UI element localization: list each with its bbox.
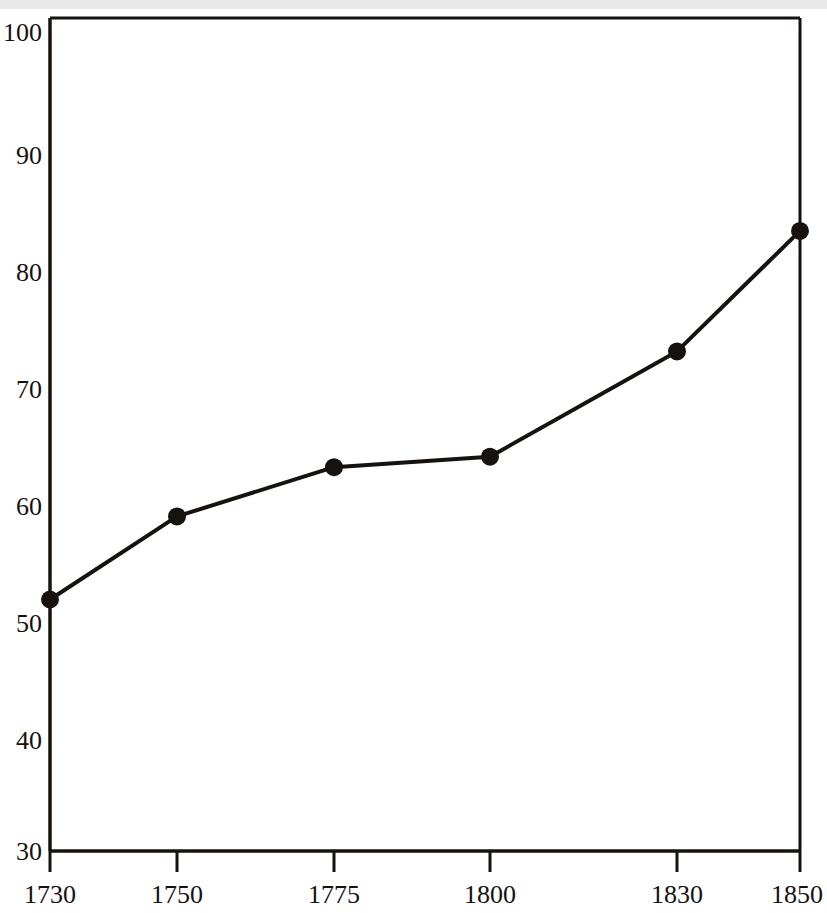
- y-tick-label-30: 30: [16, 837, 42, 866]
- y-tick-label-70: 70: [16, 375, 42, 404]
- data-point-1730: [41, 591, 59, 609]
- y-tick-label-80: 80: [16, 258, 42, 287]
- data-line: [50, 231, 800, 600]
- data-point-1775: [325, 458, 343, 476]
- line-chart: 100 90 80 70 60 50 40 30 1730 1750 1775 …: [0, 0, 827, 913]
- y-tick-label-50: 50: [16, 609, 42, 638]
- y-tick-label-100: 100: [3, 18, 42, 47]
- x-tick-label-1750: 1750: [151, 880, 203, 909]
- data-point-1850: [791, 222, 809, 240]
- x-tick-label-1775: 1775: [308, 880, 360, 909]
- y-tick-label-90: 90: [16, 141, 42, 170]
- x-tick-label-1800: 1800: [464, 880, 516, 909]
- y-tick-labels: 100 90 80 70 60 50 40 30: [3, 18, 42, 866]
- data-point-1830: [668, 342, 686, 360]
- x-tick-labels: 1730 1750 1775 1800 1830 1850: [24, 880, 823, 909]
- y-tick-label-40: 40: [16, 726, 42, 755]
- x-tick-label-1850: 1850: [771, 880, 823, 909]
- x-tick-label-1830: 1830: [651, 880, 703, 909]
- chart-page: 100 90 80 70 60 50 40 30 1730 1750 1775 …: [0, 0, 827, 913]
- data-point-1750: [168, 507, 186, 525]
- data-markers: [41, 222, 809, 609]
- x-tick-marks: [50, 851, 800, 872]
- plot-frame: [50, 18, 800, 851]
- x-tick-label-1730: 1730: [24, 880, 76, 909]
- y-tick-label-60: 60: [16, 492, 42, 521]
- data-point-1800: [481, 448, 499, 466]
